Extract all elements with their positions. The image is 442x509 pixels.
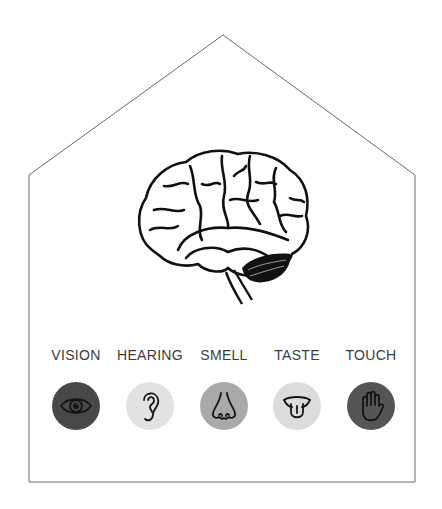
smell-circle [200,382,248,430]
hearing-circle [126,382,174,430]
nose-icon [200,382,248,430]
sense-touch: TOUCH [326,347,416,430]
touch-circle [347,382,395,430]
sense-label: TOUCH [326,347,416,363]
brain-icon [130,140,320,310]
senses-diagram: VISION HEARING SMELL [0,0,442,509]
eye-icon [52,382,100,430]
ear-icon [126,382,174,430]
taste-circle [273,382,321,430]
vision-circle [52,382,100,430]
hand-icon [347,382,395,430]
tongue-icon [273,382,321,430]
